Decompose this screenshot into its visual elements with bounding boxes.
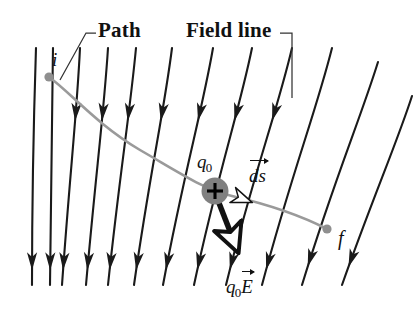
field-line-arrowhead bbox=[267, 102, 282, 122]
vector-arrow-overline bbox=[250, 160, 269, 161]
field-line-arrowhead bbox=[344, 248, 360, 268]
field-line-arrowhead bbox=[156, 102, 169, 121]
field-line-arrowhead bbox=[261, 251, 276, 271]
field-line-arrowhead bbox=[225, 251, 239, 271]
initial-point-marker bbox=[44, 72, 53, 81]
field-line bbox=[62, 48, 80, 285]
displacement-symbol: ds bbox=[249, 165, 266, 186]
field-line-arrowhead bbox=[303, 248, 318, 268]
field-line bbox=[108, 48, 136, 285]
field-line-arrowhead bbox=[229, 102, 243, 122]
displacement-label: ds bbox=[249, 166, 266, 185]
field-line bbox=[86, 48, 108, 285]
field-line bbox=[50, 48, 53, 285]
force-field-symbol: E bbox=[241, 276, 253, 297]
force-vector-arrow bbox=[219, 203, 237, 250]
force-label: q0E bbox=[226, 277, 253, 300]
field-line-arrowhead bbox=[161, 251, 174, 271]
initial-point-label: i bbox=[52, 50, 57, 69]
field-line bbox=[262, 48, 332, 285]
field-line-label: Field line bbox=[186, 20, 271, 41]
electric-field-diagram: Path Field line i f q0 ds q0E bbox=[0, 0, 413, 315]
charge-label: q0 bbox=[197, 152, 212, 175]
field-line bbox=[302, 62, 378, 285]
path-label: Path bbox=[98, 20, 141, 41]
field-line-arrowhead bbox=[192, 251, 206, 271]
test-charge bbox=[202, 178, 229, 205]
field-line-arrowhead bbox=[193, 102, 207, 122]
final-point-label: f bbox=[338, 228, 344, 248]
field-line-group bbox=[32, 48, 412, 285]
field-line bbox=[32, 48, 36, 285]
vector-arrow-overline bbox=[242, 271, 255, 272]
charge-subscript: 0 bbox=[206, 160, 212, 175]
final-point-marker bbox=[322, 224, 331, 233]
